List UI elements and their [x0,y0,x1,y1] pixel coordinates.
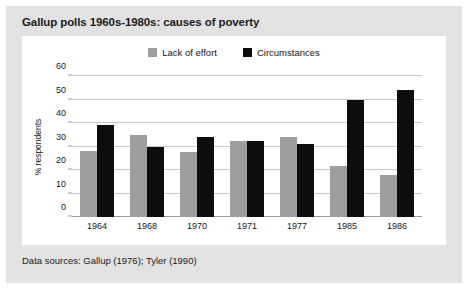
bar-circumstances-1971[interactable] [247,141,264,217]
legend-label-circumstances: Circumstances [257,47,320,58]
bar-lack-of-effort-1977[interactable] [280,137,297,217]
x-axis-tick-1971: 1971 [222,221,272,231]
y-axis-tick-30: 30 [56,132,66,142]
bar-group-1985 [322,76,372,217]
y-axis-tick-20: 20 [56,155,66,165]
y-axis-tick-50: 50 [56,85,66,95]
figure-panel: Gallup polls 1960s-1980s: causes of pove… [6,6,462,283]
legend-swatch-icon-circumstances [243,48,252,57]
bar-circumstances-1964[interactable] [97,125,114,217]
chart-footer-source: Data sources: Gallup (1976); Tyler (1990… [22,255,197,266]
bar-lack-of-effort-1985[interactable] [330,166,347,217]
legend-label-lack-of-effort: Lack of effort [162,47,217,58]
chart-legend: Lack of effort Circumstances [22,47,446,58]
legend-swatch-icon-lack-of-effort [148,48,157,57]
x-axis-tick-1964: 1964 [72,221,122,231]
legend-item-lack-of-effort[interactable]: Lack of effort [148,47,217,58]
bar-lack-of-effort-1970[interactable] [180,152,197,217]
bar-circumstances-1968[interactable] [147,147,164,218]
bars-layer [72,76,422,217]
y-axis-label: % respondents [33,118,43,175]
bar-circumstances-1970[interactable] [197,137,214,217]
y-axis-tick-40: 40 [56,108,66,118]
bar-group-1986 [372,76,422,217]
plot-card: Lack of effort Circumstances % responden… [22,36,446,245]
x-axis-tick-1968: 1968 [122,221,172,231]
x-axis-tick-1986: 1986 [372,221,422,231]
plot-area: % respondents 0102030405060 [72,76,422,217]
bar-group-1964 [72,76,122,217]
bar-lack-of-effort-1971[interactable] [230,141,247,217]
legend-item-circumstances[interactable]: Circumstances [243,47,320,58]
bar-circumstances-1985[interactable] [347,100,364,218]
bar-group-1971 [222,76,272,217]
bar-group-1968 [122,76,172,217]
x-axis-tick-1977: 1977 [272,221,322,231]
bar-circumstances-1977[interactable] [297,144,314,217]
y-axis-tick-0: 0 [61,202,66,212]
page-title: Gallup polls 1960s-1980s: causes of pove… [22,16,259,28]
bar-group-1977 [272,76,322,217]
bar-lack-of-effort-1964[interactable] [80,151,97,217]
bar-group-1970 [172,76,222,217]
y-axis-tick-60: 60 [56,61,66,71]
bar-lack-of-effort-1986[interactable] [380,175,397,217]
bar-lack-of-effort-1968[interactable] [130,135,147,217]
bar-circumstances-1986[interactable] [397,90,414,217]
y-axis-tick-10: 10 [56,179,66,189]
x-axis-tick-1970: 1970 [172,221,222,231]
x-axis-tick-1985: 1985 [322,221,372,231]
x-axis-tick-labels: 1964196819701971197719851986 [72,221,422,231]
